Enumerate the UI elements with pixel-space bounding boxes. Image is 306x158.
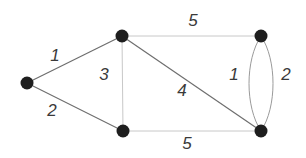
edge-weight-a-b: 1 <box>50 47 59 64</box>
edge-weight-c-e: 5 <box>182 135 191 152</box>
edge-weight-a-c: 2 <box>47 102 56 119</box>
edge-weight-d-e-right: 2 <box>281 66 290 83</box>
edge-weight-b-e: 4 <box>177 82 186 99</box>
edge-weight-b-d: 5 <box>188 12 197 29</box>
node-c <box>117 125 130 138</box>
edge-b-e <box>122 36 261 131</box>
weighted-graph-diagram: 1 2 3 4 5 5 1 2 <box>0 0 306 158</box>
edge-weight-d-e-left: 1 <box>229 66 238 83</box>
edge-d-e-arc-left <box>249 36 261 131</box>
node-a <box>21 77 34 90</box>
node-b <box>116 30 129 43</box>
edge-a-c <box>27 83 123 131</box>
edge-weight-b-c: 3 <box>99 66 108 83</box>
edge-d-e-arc-right <box>261 36 273 131</box>
graph-canvas <box>0 0 306 158</box>
edge-b-c <box>122 36 123 131</box>
node-e <box>255 125 268 138</box>
node-d <box>255 30 268 43</box>
